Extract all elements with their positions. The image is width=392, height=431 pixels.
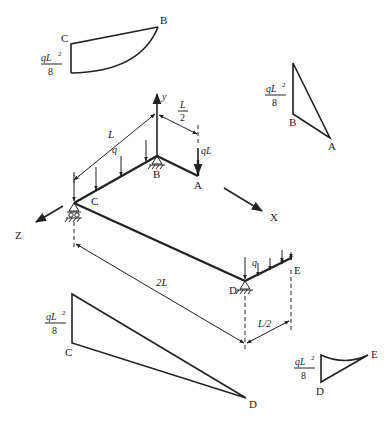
svg-text:8: 8: [48, 66, 53, 77]
distributed-load-label: q: [252, 257, 257, 268]
moment-value-label: qL 2 8: [41, 50, 62, 77]
label-a: A: [194, 179, 202, 191]
label-d: D: [249, 398, 257, 410]
distributed-load-cb: [74, 140, 146, 201]
dimension-ba-label: L 2: [178, 99, 188, 123]
label-e: E: [294, 264, 301, 276]
label-d: D: [229, 284, 237, 296]
moment-diagram-cb: B C qL 2 8: [41, 14, 167, 77]
svg-text:qL: qL: [295, 356, 306, 367]
svg-text:8: 8: [52, 325, 57, 336]
member-cd: [74, 203, 245, 281]
label-c: C: [65, 346, 72, 358]
label-b: B: [289, 116, 296, 128]
svg-text:2: 2: [58, 50, 62, 58]
label-a: A: [328, 140, 336, 152]
member-ba: [157, 156, 198, 176]
moment-value-label: qL 2 8: [294, 354, 315, 381]
svg-text:qL: qL: [266, 83, 277, 94]
moment-value-label: qL 2 8: [45, 309, 66, 336]
svg-text:8: 8: [272, 97, 277, 108]
point-load-label: qL: [201, 145, 212, 156]
svg-text:8: 8: [301, 370, 306, 381]
y-axis-label: y: [161, 91, 167, 102]
z-axis-arrow: [36, 206, 63, 222]
label-c: C: [61, 32, 68, 44]
frame-structure: y B A qL L 2 L q: [15, 91, 301, 350]
svg-text:2: 2: [311, 354, 315, 362]
dimension-ba: [159, 115, 197, 134]
member-cb: [74, 156, 157, 203]
svg-text:2: 2: [282, 81, 286, 89]
x-axis-label: X: [270, 211, 278, 223]
svg-text:qL: qL: [41, 52, 52, 63]
label-b: B: [153, 168, 160, 180]
moment-diagram-cd: C D qL 2 8: [45, 294, 257, 410]
pin-support-d: [236, 281, 253, 294]
label-c: C: [91, 195, 98, 207]
label-d: D: [316, 385, 324, 397]
moment-diagram-ba: B A qL 2 8: [265, 63, 336, 152]
label-e: E: [371, 348, 378, 360]
dimension-cb-label: L: [107, 128, 114, 140]
dimension-cd: [76, 244, 244, 343]
moment-value-label: qL 2 8: [265, 81, 286, 108]
label-b: B: [160, 14, 167, 26]
svg-text:2: 2: [62, 309, 66, 317]
svg-text:qL: qL: [46, 311, 57, 322]
x-axis-arrow: [224, 188, 262, 211]
svg-text:2: 2: [180, 112, 185, 123]
svg-text:L: L: [179, 99, 186, 110]
dimension-de-label: L/2: [257, 318, 271, 329]
dimension-cd-label: 2L: [156, 276, 168, 288]
moment-diagram-de: D E qL 2 8: [294, 348, 378, 397]
space-frame-diagram: B C qL 2 8 B A qL 2 8 C D qL 2 8: [0, 0, 392, 431]
z-axis-label: Z: [15, 229, 22, 241]
distributed-load-label: q: [112, 144, 117, 155]
